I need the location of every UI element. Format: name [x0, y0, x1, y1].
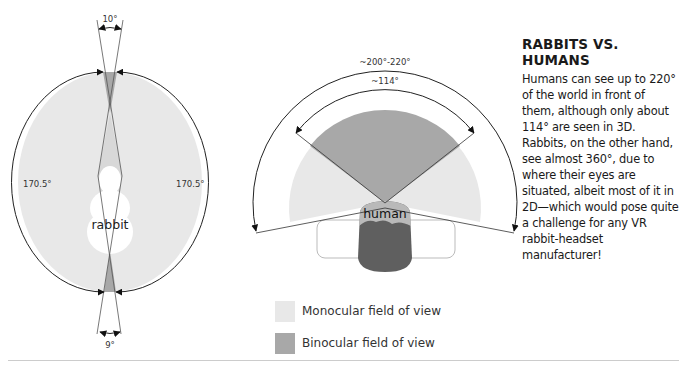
legend-item-binocular: Binocular field of view [275, 332, 441, 354]
legend-label: Monocular field of view [302, 304, 441, 318]
human-label: human [363, 206, 407, 221]
bottom-divider [8, 360, 679, 361]
legend-item-monocular: Monocular field of view [275, 300, 441, 322]
rabbit-right-angle: 170.5° [176, 179, 205, 189]
sidebar-body: Humans can see up to 220° of the world i… [522, 71, 679, 263]
legend-label: Binocular field of view [302, 336, 435, 350]
human-diagram: ~200°-220° ~114° human [253, 57, 517, 272]
rabbit-top-angle: 10° [102, 14, 117, 24]
binocular-swatch [275, 333, 295, 354]
rabbit-diagram: 10° 9° 170.5° 170.5° rabbit [11, 14, 208, 350]
sidebar: RABBITS VS. HUMANS Humans can see up to … [522, 36, 679, 263]
rabbit-label: rabbit [91, 217, 128, 232]
rabbit-left-angle: 170.5° [23, 179, 52, 189]
sidebar-title: RABBITS VS. HUMANS [522, 36, 679, 68]
legend: Monocular field of view Binocular field … [275, 300, 441, 364]
human-outer-angle: ~200°-220° [359, 57, 410, 67]
human-inner-angle: ~114° [371, 76, 399, 86]
rabbit-bottom-angle: 9° [105, 340, 115, 350]
monocular-swatch [275, 301, 295, 322]
